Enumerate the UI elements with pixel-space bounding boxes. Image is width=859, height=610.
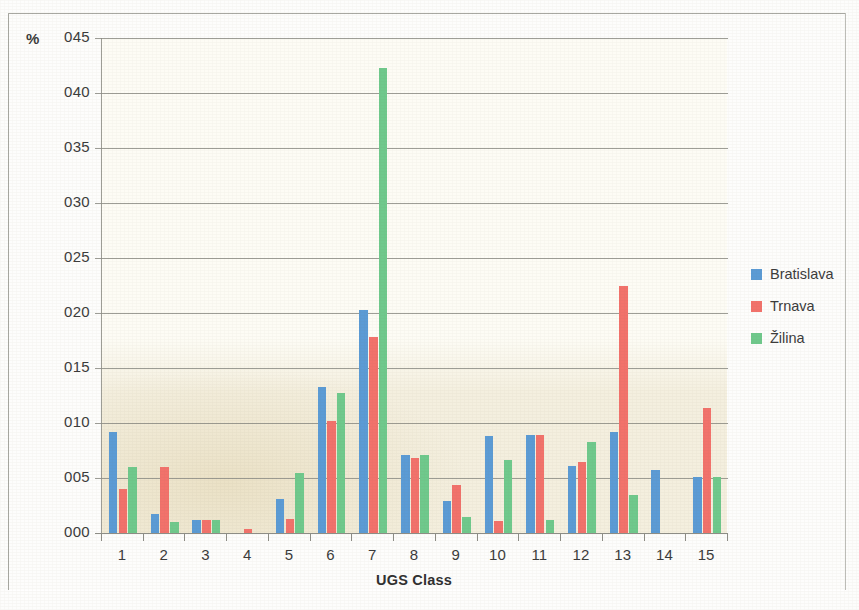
bar-žilina-class-1 <box>128 467 137 533</box>
x-axis-tick-label-8: 8 <box>410 546 418 563</box>
x-axis-tick <box>351 534 352 541</box>
legend-label: Bratislava <box>770 266 834 282</box>
plot-area <box>101 38 727 533</box>
chart-legend: BratislavaTrnavaŽilina <box>751 258 856 354</box>
bar-trnava-class-15 <box>703 408 712 533</box>
legend-swatch-icon <box>751 269 762 280</box>
bar-bratislava-class-2 <box>151 514 160 533</box>
y-axis-tick <box>95 478 102 479</box>
bar-bratislava-class-11 <box>526 435 535 533</box>
x-axis-tick-label-11: 11 <box>531 546 547 563</box>
y-axis-tick-label: 010 <box>44 413 90 430</box>
y-axis-tick <box>95 313 102 314</box>
legend-item-bratislava: Bratislava <box>751 258 856 290</box>
bar-bratislava-class-12 <box>568 466 577 533</box>
y-axis-tick-label: 025 <box>44 248 90 265</box>
bar-žilina-class-12 <box>587 442 596 533</box>
y-axis-tick-label: 015 <box>44 358 90 375</box>
x-axis-tick <box>184 534 185 541</box>
bar-bratislava-class-3 <box>192 520 201 533</box>
y-axis-tick-label: 020 <box>44 303 90 320</box>
bar-žilina-class-10 <box>504 460 513 533</box>
y-axis-tick <box>95 258 102 259</box>
x-axis-tick <box>143 534 144 541</box>
bar-bratislava-class-8 <box>401 455 410 533</box>
bar-žilina-class-13 <box>629 495 638 534</box>
bar-žilina-class-3 <box>212 520 221 533</box>
x-axis-tick <box>685 534 686 541</box>
legend-item-žilina: Žilina <box>751 322 856 354</box>
bar-bratislava-class-7 <box>359 310 368 533</box>
bar-trnava-class-12 <box>578 462 587 534</box>
y-axis-tick <box>95 148 102 149</box>
x-axis-tick-label-1: 1 <box>118 546 126 563</box>
legend-swatch-icon <box>751 301 762 312</box>
bar-trnava-class-11 <box>536 435 545 533</box>
bar-trnava-class-5 <box>286 519 295 533</box>
bar-žilina-class-11 <box>546 520 555 533</box>
bar-žilina-class-15 <box>713 477 722 533</box>
bar-trnava-class-8 <box>411 458 420 533</box>
bar-trnava-class-7 <box>369 337 378 533</box>
bar-žilina-class-7 <box>379 68 388 533</box>
legend-item-trnava: Trnava <box>751 290 856 322</box>
bars-layer <box>102 38 728 533</box>
y-axis-tick <box>95 38 102 39</box>
x-axis-tick-label-15: 15 <box>698 546 715 563</box>
bar-žilina-class-8 <box>420 455 429 533</box>
bar-žilina-class-6 <box>337 393 346 533</box>
x-axis-tick-label-9: 9 <box>452 546 460 563</box>
x-axis-tick <box>393 534 394 541</box>
bar-trnava-class-1 <box>119 489 128 533</box>
x-axis-tick <box>268 534 269 541</box>
bar-chart: % 000005010015020025030035040045 1234567… <box>0 0 859 610</box>
x-axis-tick-label-10: 10 <box>489 546 506 563</box>
x-axis-line <box>101 533 727 534</box>
x-axis-tick-label-13: 13 <box>614 546 631 563</box>
bar-trnava-class-6 <box>327 421 336 533</box>
y-axis-tick-labels: 000005010015020025030035040045 <box>40 38 90 533</box>
y-axis-unit-label: % <box>26 30 39 47</box>
x-axis-tick <box>435 534 436 541</box>
bar-žilina-class-9 <box>462 517 471 534</box>
bar-trnava-class-9 <box>452 485 461 533</box>
bar-bratislava-class-5 <box>276 499 285 533</box>
bar-trnava-class-2 <box>160 467 169 533</box>
bar-bratislava-class-14 <box>651 470 660 533</box>
x-axis-tick <box>560 534 561 541</box>
bar-bratislava-class-9 <box>443 501 452 533</box>
y-axis-tick-label: 030 <box>44 193 90 210</box>
x-axis-tick <box>101 534 102 541</box>
y-axis-tick <box>95 203 102 204</box>
x-axis-tick <box>518 534 519 541</box>
legend-swatch-icon <box>751 333 762 344</box>
x-axis-tick <box>602 534 603 541</box>
x-axis-tick-label-14: 14 <box>656 546 673 563</box>
x-axis-tick-label-12: 12 <box>573 546 590 563</box>
y-axis-tick <box>95 423 102 424</box>
bar-trnava-class-3 <box>202 520 211 533</box>
x-axis-tick <box>226 534 227 541</box>
bar-bratislava-class-1 <box>109 432 118 533</box>
x-axis-tick-label-7: 7 <box>368 546 376 563</box>
bar-bratislava-class-10 <box>485 436 494 533</box>
x-axis-tick-label-2: 2 <box>159 546 167 563</box>
x-axis-tick <box>310 534 311 541</box>
bar-trnava-class-13 <box>619 286 628 534</box>
x-axis-tick <box>727 534 728 541</box>
bar-trnava-class-10 <box>494 521 503 533</box>
x-axis-tick <box>477 534 478 541</box>
y-axis-tick <box>95 93 102 94</box>
scanned-page: % 000005010015020025030035040045 1234567… <box>0 0 859 610</box>
x-axis-tick-label-5: 5 <box>285 546 293 563</box>
y-axis-tick-label: 035 <box>44 138 90 155</box>
legend-label: Žilina <box>770 330 805 346</box>
x-axis-tick-label-3: 3 <box>201 546 209 563</box>
legend-label: Trnava <box>770 298 815 314</box>
bar-žilina-class-5 <box>295 473 304 534</box>
x-axis-tick <box>644 534 645 541</box>
bar-bratislava-class-13 <box>610 432 619 533</box>
y-axis-tick-label: 040 <box>44 83 90 100</box>
y-axis-tick-label: 045 <box>44 28 90 45</box>
x-axis-title: UGS Class <box>101 572 727 588</box>
